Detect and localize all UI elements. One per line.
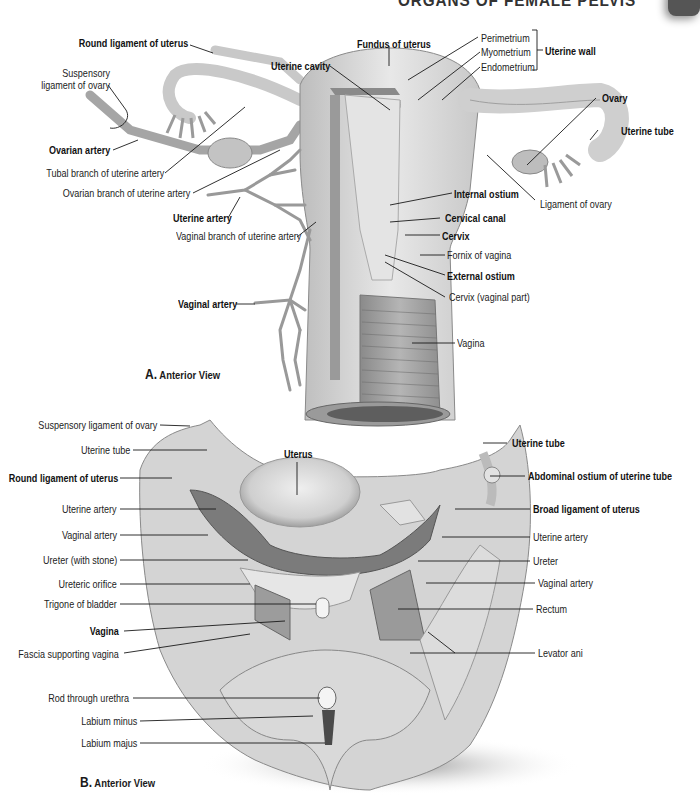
label-uterine-tube: Uterine tube: [621, 125, 674, 137]
label-uterine-artery-right: Uterine artery: [533, 531, 588, 543]
label-levator-ani: Levator ani: [538, 647, 583, 659]
label-ligament-of-ovary: Ligament of ovary: [540, 198, 612, 210]
label-endometrium: Endometrium: [481, 61, 535, 73]
label-internal-ostium: Internal ostium: [454, 188, 519, 200]
figure-b-caption-text: Anterior View: [94, 777, 155, 789]
label-uterine-tube-right: Uterine tube: [512, 437, 565, 449]
label-cervical-canal: Cervical canal: [445, 212, 506, 224]
label-vaginal-artery: Vaginal artery: [178, 298, 237, 310]
label-ureteric-orifice: Ureteric orifice: [59, 578, 117, 590]
figure-a-caption: A. Anterior View: [145, 366, 220, 382]
label-vaginal-artery-right: Vaginal artery: [538, 577, 593, 589]
label-uterine-cavity: Uterine cavity: [271, 60, 330, 72]
label-vagina-b: Vagina: [90, 625, 119, 637]
label-vagina: Vagina: [457, 337, 484, 349]
label-tubal-branch-of-uterine-artery: Tubal branch of uterine artery: [46, 167, 164, 179]
label-rod-through-urethra: Rod through urethra: [48, 692, 129, 704]
label-rectum: Rectum: [536, 603, 567, 615]
label-labium-majus: Labium majus: [81, 737, 137, 749]
label-suspensory-ligament-of-ovary-b: Suspensory ligament of ovary: [38, 419, 157, 431]
label-broad-ligament-of-uterus: Broad ligament of uterus: [533, 503, 640, 515]
label-fornix-of-vagina: Fornix of vagina: [447, 249, 511, 261]
label-uterine-tube-left: Uterine tube: [81, 444, 130, 456]
label-vaginal-branch-of-uterine-artery: Vaginal branch of uterine artery: [176, 230, 301, 242]
figure-b-caption: B. Anterior View: [80, 774, 155, 790]
figure-a-letter: A.: [145, 366, 157, 382]
label-round-ligament-of-uterus-b: Round ligament of uterus: [9, 472, 118, 484]
label-uterine-wall: Uterine wall: [545, 45, 596, 57]
label-uterus: Uterus: [284, 448, 313, 460]
label-ureter-with-stone: Ureter (with stone): [43, 554, 117, 566]
figure-a-caption-text: Anterior View: [159, 369, 220, 381]
label-ureter: Ureter: [533, 555, 558, 567]
label-external-ostium: External ostium: [447, 270, 515, 282]
label-ovary: Ovary: [602, 92, 628, 104]
label-uterine-artery-left: Uterine artery: [62, 503, 117, 515]
label-ovarian-artery: Ovarian artery: [49, 144, 110, 156]
figure-b-letter: B.: [80, 774, 92, 790]
label-myometrium: Myometrium: [481, 46, 531, 58]
label-trigone-of-bladder: Trigone of bladder: [44, 598, 117, 610]
label-ovarian-branch-of-uterine-artery: Ovarian branch of uterine artery: [63, 187, 190, 199]
label-cervix-vaginal-part: Cervix (vaginal part): [449, 291, 530, 303]
label-labium-minus: Labium minus: [81, 715, 137, 727]
label-round-ligament-of-uterus: Round ligament of uterus: [79, 37, 188, 49]
label-abdominal-ostium-of-uterine-tube: Abdominal ostium of uterine tube: [528, 470, 672, 482]
label-suspensory-ligament-of-ovary: Suspensory ligament of ovary: [41, 67, 110, 91]
label-fascia-supporting-vagina: Fascia supporting vagina: [19, 648, 119, 660]
label-perimetrium: Perimetrium: [481, 32, 530, 44]
label-cervix: Cervix: [442, 230, 470, 242]
label-fundus-of-uterus: Fundus of uterus: [357, 38, 431, 50]
label-vaginal-artery-left: Vaginal artery: [62, 529, 117, 541]
label-uterine-artery: Uterine artery: [173, 212, 232, 224]
